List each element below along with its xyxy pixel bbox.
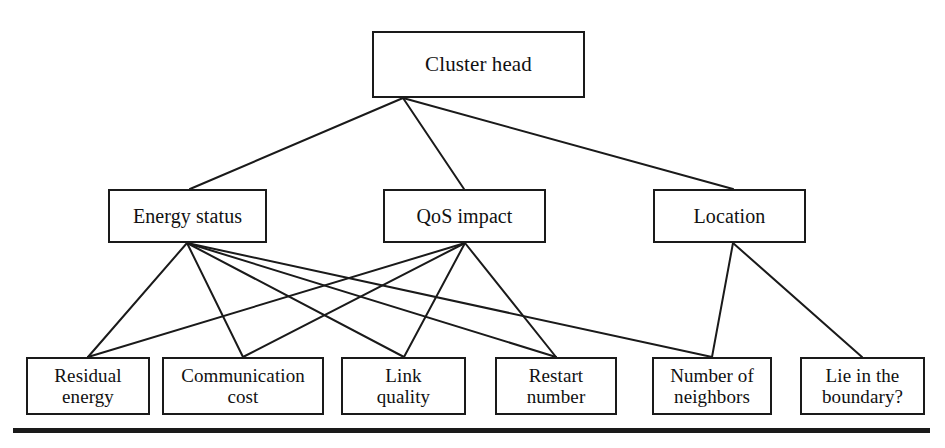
node-label-communication-cost: Communication cost	[177, 365, 309, 408]
node-location[interactable]: Location	[653, 189, 806, 243]
edge-qos-impact-to-link-quality	[404, 243, 465, 357]
node-label-cluster-head: Cluster head	[421, 53, 536, 77]
node-number-of-neighbors[interactable]: Number of neighbors	[652, 357, 772, 415]
node-label-link-quality: Link quality	[373, 365, 434, 408]
node-cluster-head[interactable]: Cluster head	[372, 31, 585, 98]
edge-cluster-head-to-location	[403, 98, 733, 189]
node-label-residual-energy: Residual energy	[50, 365, 125, 408]
node-label-restart-number: Restart number	[523, 365, 590, 408]
bottom-rule-divider	[13, 428, 930, 433]
node-label-number-of-neighbors: Number of neighbors	[666, 365, 758, 408]
node-restart-number[interactable]: Restart number	[495, 357, 617, 415]
edge-energy-status-to-number-of-neighbors	[187, 243, 712, 357]
edge-energy-status-to-residual-energy	[88, 243, 187, 357]
node-label-energy-status: Energy status	[129, 205, 246, 227]
edge-cluster-head-to-energy-status	[190, 98, 403, 189]
hierarchy-diagram: Cluster headEnergy statusQoS impactLocat…	[0, 0, 945, 448]
node-label-location: Location	[690, 205, 770, 227]
edge-location-to-lie-in-the-boundary	[733, 243, 862, 357]
node-lie-in-the-boundary[interactable]: Lie in the boundary?	[800, 357, 925, 415]
node-link-quality[interactable]: Link quality	[341, 357, 466, 415]
node-energy-status[interactable]: Energy status	[108, 189, 267, 243]
edge-location-to-number-of-neighbors	[712, 243, 733, 357]
node-communication-cost[interactable]: Communication cost	[162, 357, 324, 415]
node-label-lie-in-the-boundary: Lie in the boundary?	[818, 365, 907, 408]
node-residual-energy[interactable]: Residual energy	[26, 357, 150, 415]
node-label-qos-impact: QoS impact	[413, 205, 517, 227]
node-qos-impact[interactable]: QoS impact	[383, 189, 546, 243]
edge-qos-impact-to-restart-number	[465, 243, 556, 357]
edge-energy-status-to-communication-cost	[187, 243, 243, 357]
